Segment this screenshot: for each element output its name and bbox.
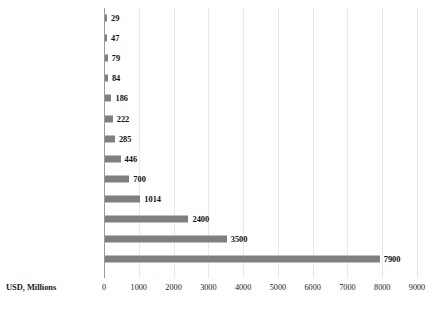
bar-value-label: 7900 (380, 255, 401, 264)
bar-row: Australia29 (104, 12, 417, 24)
bar-value-label: 3500 (227, 235, 248, 244)
bar-chart: Australia29Africa (a)47Ireland79Singapor… (0, 0, 448, 311)
bar-row: Israel186 (104, 92, 417, 104)
x-tick-label: 6000 (304, 283, 320, 292)
bar (105, 236, 227, 243)
bar (105, 216, 188, 223)
bar-value-label: 446 (121, 154, 138, 163)
x-tick-label: 2000 (165, 283, 181, 292)
bar-row: Brazil700 (104, 173, 417, 185)
bar-row: France222 (104, 113, 417, 125)
bar-value-label: 29 (107, 14, 119, 23)
bar-value-label: 84 (108, 74, 120, 83)
bar-value-label: 222 (113, 114, 130, 123)
bar (105, 135, 115, 142)
bar-value-label: 1014 (140, 194, 161, 203)
bar-row: U.S.7900 (104, 253, 417, 265)
bar-row: Ireland79 (104, 52, 417, 64)
bar-value-label: 47 (107, 34, 119, 43)
x-tick-label: 0 (102, 283, 106, 292)
x-tick-label: 9000 (409, 283, 425, 292)
bar-row: China3500 (104, 233, 417, 245)
bar (105, 195, 140, 202)
x-tick-label: 8000 (374, 283, 390, 292)
plot-area: Australia29Africa (a)47Ireland79Singapor… (104, 8, 417, 278)
bar-value-label: 285 (115, 134, 132, 143)
bar-value-label: 2400 (188, 215, 209, 224)
bar (105, 256, 380, 263)
x-tick-label: 4000 (235, 283, 251, 292)
bar-value-label: 700 (129, 174, 146, 183)
bar-row: Rest of Europe1014 (104, 193, 417, 205)
bar-row: Africa (a)47 (104, 32, 417, 44)
x-tick-label: 3000 (200, 283, 216, 292)
bar-value-label: 186 (111, 94, 128, 103)
bar-row: Rest of the World (b)446 (104, 153, 417, 165)
x-tick-label: 5000 (270, 283, 286, 292)
bar (105, 155, 121, 162)
bar-value-label: 79 (108, 54, 120, 63)
x-axis-title: USD, Millions (6, 283, 56, 292)
bar-row: Singapore84 (104, 72, 417, 84)
x-tick-label: 1000 (131, 283, 147, 292)
gridline (417, 8, 418, 278)
bar-row: UK285 (104, 133, 417, 145)
bar (105, 115, 113, 122)
x-tick-label: 7000 (339, 283, 355, 292)
bar (105, 175, 129, 182)
bar-row: India (c)2400 (104, 213, 417, 225)
